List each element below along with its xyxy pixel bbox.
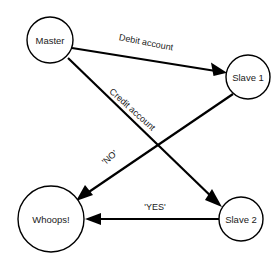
arrow-head-debit-account bbox=[211, 63, 227, 77]
node-master-label: Master bbox=[35, 35, 64, 46]
diagram-canvas: Debit account Credit account 'NO' 'YES' … bbox=[0, 0, 280, 270]
node-slave-2[interactable]: Slave 2 bbox=[219, 197, 263, 241]
arrow-head-yes bbox=[85, 213, 101, 225]
diagram-svg: Debit account Credit account 'NO' 'YES' … bbox=[0, 0, 280, 270]
edge-slave2-to-whoops: 'YES' bbox=[85, 202, 219, 225]
node-whoops-label: Whoops! bbox=[32, 214, 70, 225]
node-master[interactable]: Master bbox=[27, 17, 73, 63]
node-slave-2-label: Slave 2 bbox=[225, 214, 257, 225]
arrow-head-no bbox=[76, 185, 93, 201]
edge-label-debit-account: Debit account bbox=[118, 32, 174, 52]
edge-master-to-slave1: Debit account bbox=[72, 32, 227, 76]
node-slave-1-label: Slave 1 bbox=[232, 72, 264, 83]
edge-master-to-slave2: Credit account bbox=[68, 58, 222, 207]
edge-slave1-to-whoops: 'NO' bbox=[76, 94, 233, 201]
node-slave-1[interactable]: Slave 1 bbox=[226, 55, 270, 99]
edge-line-credit-account bbox=[68, 58, 218, 203]
edge-line-debit-account bbox=[72, 48, 222, 72]
node-whoops[interactable]: Whoops! bbox=[18, 186, 84, 252]
edge-line-no bbox=[80, 94, 233, 198]
edge-label-no: 'NO' bbox=[100, 148, 120, 167]
edge-label-credit-account: Credit account bbox=[108, 86, 158, 133]
edge-label-yes: 'YES' bbox=[144, 202, 166, 212]
